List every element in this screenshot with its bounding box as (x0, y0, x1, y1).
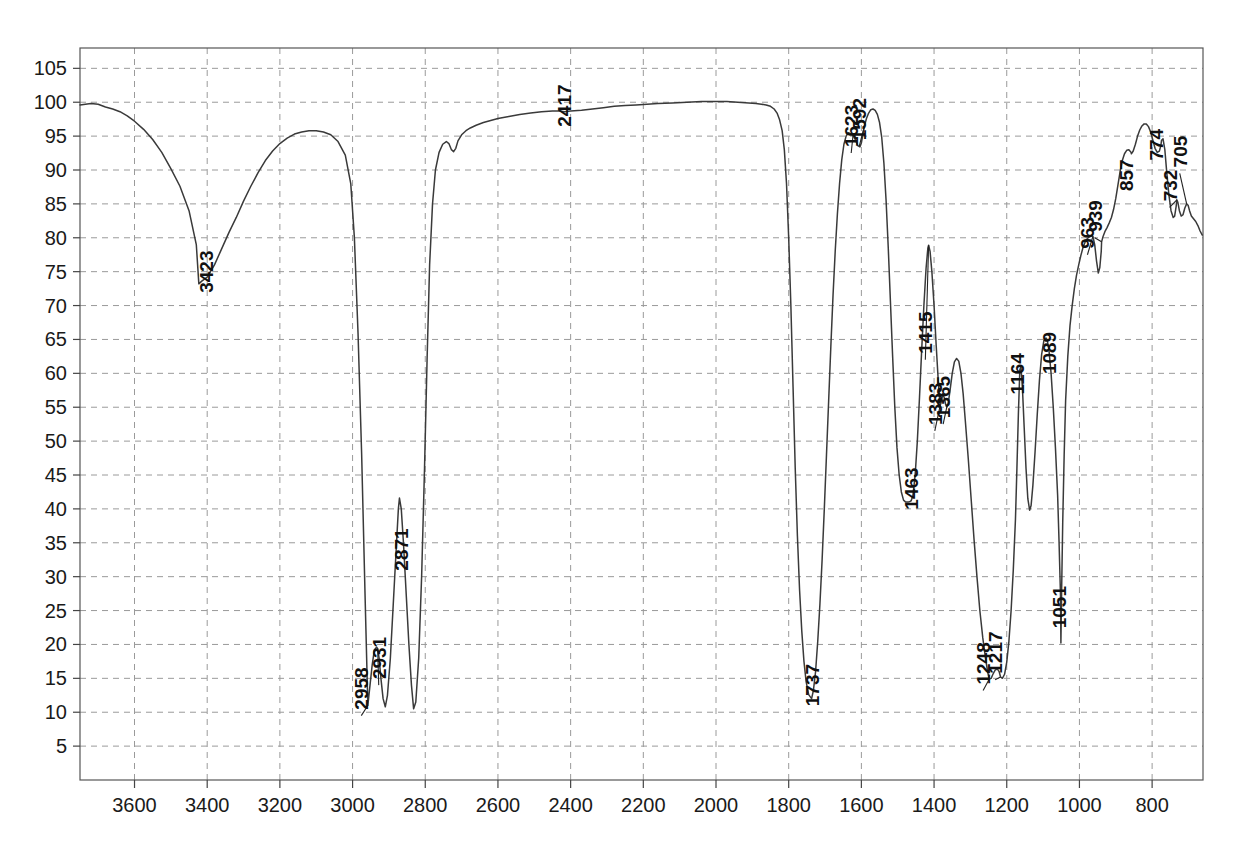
plot-background (0, 0, 1252, 845)
y-tick-label: 60 (45, 362, 67, 384)
x-tick-label: 2800 (403, 794, 448, 816)
peak-label-1089: 1089 (1039, 332, 1060, 374)
y-tick-label: 90 (45, 159, 67, 181)
peak-label-1217: 1217 (985, 631, 1006, 673)
peak-label-705: 705 (1170, 135, 1191, 167)
y-tick-label: 15 (45, 667, 67, 689)
x-tick-label: 800 (1135, 794, 1168, 816)
peak-label-1365: 1365 (933, 375, 954, 418)
peak-label-2871: 2871 (391, 528, 412, 571)
x-tick-label: 1600 (839, 794, 884, 816)
x-tick-label: 2000 (694, 794, 739, 816)
y-tick-label: 75 (45, 261, 67, 283)
y-tick-label: 70 (45, 295, 67, 317)
y-tick-label: 45 (45, 464, 67, 486)
peak-label-939: 939 (1085, 200, 1106, 232)
x-tick-label: 3400 (185, 794, 230, 816)
peak-label-1415: 1415 (915, 311, 936, 354)
y-tick-label: 50 (45, 430, 67, 452)
peak-label-732: 732 (1160, 170, 1181, 202)
y-tick-label: 80 (45, 227, 67, 249)
ir-spectrum-chart: 5101520253035404550556065707580859095100… (0, 0, 1252, 845)
peak-label-1592: 1592 (849, 98, 870, 140)
peak-label-1164: 1164 (1007, 353, 1028, 395)
y-tick-label: 35 (45, 532, 67, 554)
peak-label-2417: 2417 (554, 84, 575, 126)
x-tick-label: 1800 (766, 794, 811, 816)
x-tick-label: 1400 (912, 794, 957, 816)
y-tick-label: 40 (45, 498, 67, 520)
y-tick-label: 30 (45, 566, 67, 588)
peak-label-1737: 1737 (802, 664, 823, 706)
x-tick-label: 1200 (984, 794, 1029, 816)
y-tick-label: 95 (45, 125, 67, 147)
x-tick-label: 3600 (112, 794, 157, 816)
y-tick-label: 55 (45, 396, 67, 418)
peak-label-1463: 1463 (901, 467, 922, 509)
y-tick-label: 85 (45, 193, 67, 215)
x-tick-label: 3000 (330, 794, 375, 816)
x-tick-label: 2400 (548, 794, 593, 816)
x-tick-label: 2600 (476, 794, 521, 816)
y-tick-label: 20 (45, 633, 67, 655)
y-tick-label: 100 (34, 91, 67, 113)
peak-label-1051: 1051 (1049, 586, 1070, 629)
y-tick-label: 65 (45, 328, 67, 350)
y-tick-label: 105 (34, 57, 67, 79)
y-tick-label: 5 (56, 735, 67, 757)
x-tick-label: 3200 (258, 794, 303, 816)
peak-label-2931: 2931 (369, 636, 390, 679)
x-tick-label: 2200 (621, 794, 666, 816)
y-tick-label: 10 (45, 701, 67, 723)
y-tick-label: 25 (45, 600, 67, 622)
spectrum-figure: 5101520253035404550556065707580859095100… (0, 0, 1252, 845)
peak-label-774: 774 (1146, 128, 1167, 160)
peak-label-857: 857 (1116, 159, 1137, 191)
x-tick-label: 1000 (1057, 794, 1102, 816)
peak-label-3423: 3423 (196, 250, 217, 292)
